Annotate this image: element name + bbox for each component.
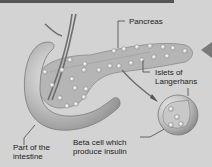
beta-cell-closeup [158,95,198,135]
label-islets-line2: Langerhans [155,77,212,86]
label-beta-line1: Beta cell which [73,138,127,147]
label-islets-line1: Islets of [155,68,212,77]
label-intestine-line2: intestine [13,152,50,161]
label-intestine: Part of the intestine [13,143,50,161]
pointer-arrow [201,42,212,58]
label-beta-line2: produce insulin [73,147,127,156]
pancreas-diagram: Pancreas Islets of Langerhans Part of th… [0,0,212,167]
label-beta-cell: Beta cell which produce insulin [73,138,127,156]
label-pancreas-text: Pancreas [129,17,163,26]
zoom-arrow [122,70,158,102]
label-pancreas: Pancreas [129,17,163,26]
label-intestine-line1: Part of the [13,143,50,152]
label-islets-of-langerhans: Islets of Langerhans [155,68,212,86]
